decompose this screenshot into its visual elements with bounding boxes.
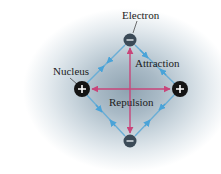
attraction-arrow-icon (107, 59, 111, 63)
electron-top (124, 34, 137, 47)
electron-bottom (124, 135, 137, 148)
attraction-arrow-icon (96, 105, 102, 112)
electron-label: Electron (122, 10, 159, 21)
repulsion-label: Repulsion (109, 97, 154, 108)
nucleus-left (74, 81, 90, 97)
attraction-arrow-icon (145, 120, 150, 126)
attraction-label: Attraction (135, 58, 180, 69)
hydrogen-molecule-diagram (0, 0, 221, 174)
attraction-arrow-icon (110, 120, 115, 126)
attraction-arrow-icon (160, 69, 166, 75)
nucleus-label: Nucleus (53, 66, 89, 77)
electron-leader-line (133, 21, 137, 33)
nucleus-leader-line (70, 78, 77, 84)
attraction-arrow-icon (159, 104, 165, 110)
nucleus-right (172, 81, 188, 97)
attraction-arrow-icon (100, 66, 104, 70)
